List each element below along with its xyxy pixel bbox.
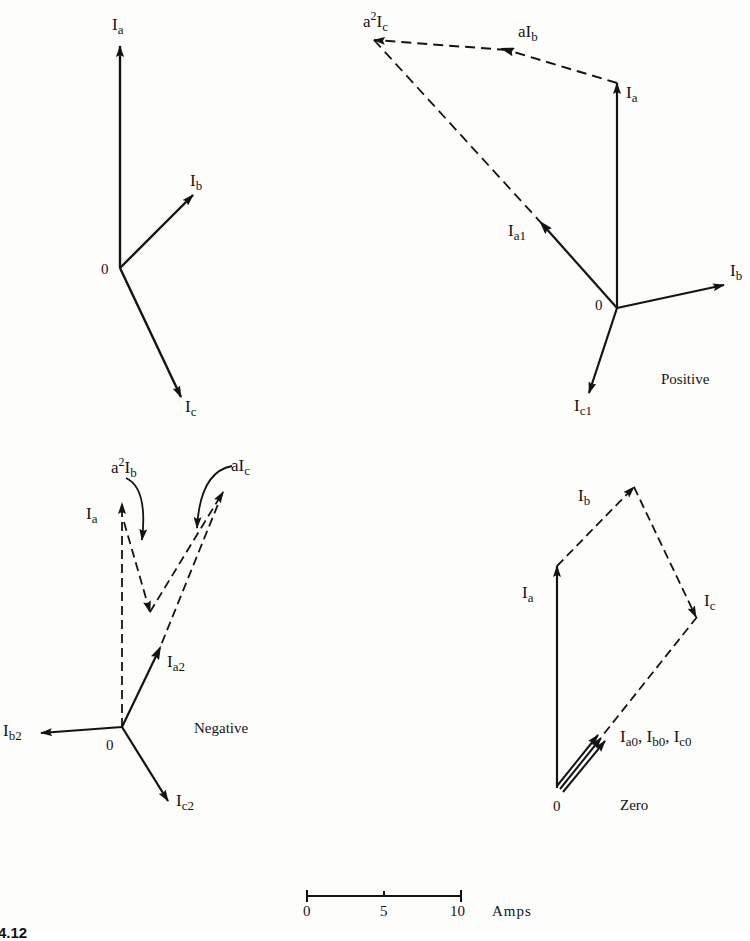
label-ic2: Ic2 <box>176 792 194 812</box>
scale-tick-0: 0 <box>303 903 311 920</box>
label-aib: aIb <box>518 23 538 43</box>
label-ic: Ic <box>704 592 715 612</box>
vector-ib0 <box>560 738 601 789</box>
zero-title: Zero <box>620 797 648 814</box>
figure-caption: 4.12 <box>0 924 27 941</box>
label-ib: Ib <box>730 262 742 282</box>
vector-aic-dashed <box>150 492 223 612</box>
label-ia: Ia <box>626 84 637 104</box>
origin-label: 0 <box>101 262 109 277</box>
vector-ia2 <box>122 652 158 727</box>
label-a2ib: a2Ib <box>111 456 137 479</box>
vector-ic <box>120 268 181 397</box>
vector-ic0 <box>563 741 605 792</box>
label-ic1: Ic1 <box>574 397 592 417</box>
positive-sequence-phasors <box>374 40 724 393</box>
label-a2ic: a2Ic <box>363 10 388 33</box>
label-ia: Ia <box>86 505 97 525</box>
vector-ic1 <box>589 308 617 393</box>
negative-title: Negative <box>194 720 248 737</box>
label-ib: Ib <box>578 487 590 507</box>
negative-sequence-phasors <box>41 466 232 801</box>
vector-ib2 <box>41 727 122 733</box>
label-zero-sequence: Ia0, Ib0, Ic0 <box>620 728 692 748</box>
label-ia: Ia <box>522 584 533 604</box>
original-phasors <box>120 46 193 397</box>
vector-ia0 <box>557 735 598 786</box>
resultant-dashed <box>157 492 223 655</box>
vector-ib <box>120 195 193 268</box>
label-ia2: Ia2 <box>167 653 185 673</box>
pointer-aic <box>197 466 232 528</box>
scale-bar <box>307 890 461 902</box>
scale-tick-10: 10 <box>450 903 465 920</box>
vector-aib-dashed <box>507 50 617 83</box>
vector-ib <box>617 285 724 308</box>
scale-tick-5: 5 <box>380 903 388 920</box>
label-ic: Ic <box>185 398 196 418</box>
label-ib2: Ib2 <box>3 722 22 742</box>
origin-label: 0 <box>553 799 561 814</box>
label-ib: Ib <box>190 172 202 192</box>
vector-ic2 <box>122 727 168 801</box>
label-aic: aIc <box>231 457 250 477</box>
label-ia1: Ia1 <box>508 222 526 242</box>
origin-label: 0 <box>106 738 114 753</box>
vector-a2ib-dashed <box>124 522 150 612</box>
vector-ic-dashed <box>634 487 696 617</box>
pointer-a2ib <box>126 478 143 540</box>
scale-unit: Amps <box>492 903 532 920</box>
vector-a2ic-dashed <box>374 40 507 50</box>
resultant-dashed <box>374 40 544 226</box>
resultant-dashed <box>603 617 697 735</box>
label-ia: Ia <box>112 16 123 36</box>
vector-ib-dashed <box>557 487 634 566</box>
origin-label: 0 <box>595 298 603 313</box>
vector-ia1 <box>544 226 617 308</box>
positive-title: Positive <box>661 371 709 388</box>
